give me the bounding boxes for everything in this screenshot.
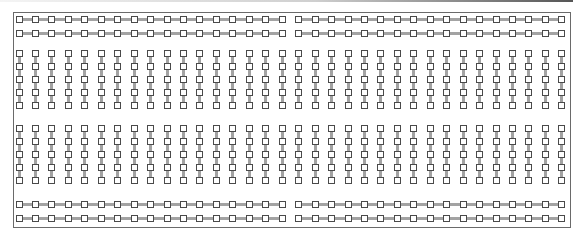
- terminal-hole[interactable]: [345, 164, 352, 171]
- terminal-hole[interactable]: [65, 138, 72, 145]
- terminal-hole[interactable]: [394, 125, 401, 132]
- power-rail-hole[interactable]: [279, 30, 286, 37]
- terminal-hole[interactable]: [65, 76, 72, 83]
- terminal-hole[interactable]: [394, 102, 401, 109]
- power-rail-hole[interactable]: [394, 215, 401, 222]
- terminal-hole[interactable]: [229, 89, 236, 96]
- terminal-hole[interactable]: [312, 50, 319, 57]
- terminal-hole[interactable]: [509, 102, 516, 109]
- terminal-hole[interactable]: [493, 164, 500, 171]
- terminal-hole[interactable]: [361, 89, 368, 96]
- power-rail-hole[interactable]: [32, 215, 39, 222]
- terminal-hole[interactable]: [443, 138, 450, 145]
- terminal-hole[interactable]: [410, 102, 417, 109]
- terminal-hole[interactable]: [114, 50, 121, 57]
- terminal-hole[interactable]: [32, 125, 39, 132]
- terminal-hole[interactable]: [98, 50, 105, 57]
- terminal-hole[interactable]: [98, 89, 105, 96]
- terminal-hole[interactable]: [427, 138, 434, 145]
- terminal-hole[interactable]: [180, 138, 187, 145]
- terminal-hole[interactable]: [476, 164, 483, 171]
- power-rail-hole[interactable]: [476, 201, 483, 208]
- power-rail-hole[interactable]: [196, 201, 203, 208]
- power-rail-hole[interactable]: [114, 215, 121, 222]
- terminal-hole[interactable]: [147, 138, 154, 145]
- terminal-hole[interactable]: [377, 177, 384, 184]
- terminal-hole[interactable]: [164, 164, 171, 171]
- terminal-hole[interactable]: [48, 177, 55, 184]
- terminal-hole[interactable]: [262, 89, 269, 96]
- terminal-hole[interactable]: [229, 177, 236, 184]
- terminal-hole[interactable]: [196, 50, 203, 57]
- power-rail-hole[interactable]: [410, 215, 417, 222]
- terminal-hole[interactable]: [328, 125, 335, 132]
- terminal-hole[interactable]: [312, 164, 319, 171]
- terminal-hole[interactable]: [131, 50, 138, 57]
- terminal-hole[interactable]: [32, 102, 39, 109]
- terminal-hole[interactable]: [542, 63, 549, 70]
- power-rail-hole[interactable]: [509, 201, 516, 208]
- power-rail-hole[interactable]: [558, 16, 565, 23]
- terminal-hole[interactable]: [328, 151, 335, 158]
- terminal-hole[interactable]: [262, 76, 269, 83]
- power-rail-hole[interactable]: [114, 30, 121, 37]
- terminal-hole[interactable]: [377, 76, 384, 83]
- terminal-hole[interactable]: [131, 138, 138, 145]
- power-rail-hole[interactable]: [180, 201, 187, 208]
- terminal-hole[interactable]: [279, 138, 286, 145]
- terminal-hole[interactable]: [246, 76, 253, 83]
- terminal-hole[interactable]: [246, 102, 253, 109]
- terminal-hole[interactable]: [476, 151, 483, 158]
- power-rail-hole[interactable]: [394, 201, 401, 208]
- power-rail-hole[interactable]: [147, 30, 154, 37]
- power-rail-hole[interactable]: [65, 30, 72, 37]
- terminal-hole[interactable]: [493, 102, 500, 109]
- power-rail-hole[interactable]: [377, 16, 384, 23]
- terminal-hole[interactable]: [65, 89, 72, 96]
- terminal-hole[interactable]: [196, 63, 203, 70]
- terminal-hole[interactable]: [65, 151, 72, 158]
- terminal-hole[interactable]: [295, 89, 302, 96]
- power-rail-hole[interactable]: [476, 16, 483, 23]
- terminal-hole[interactable]: [542, 102, 549, 109]
- terminal-hole[interactable]: [427, 89, 434, 96]
- terminal-hole[interactable]: [525, 138, 532, 145]
- power-rail-hole[interactable]: [427, 201, 434, 208]
- power-rail-hole[interactable]: [427, 215, 434, 222]
- terminal-hole[interactable]: [476, 138, 483, 145]
- terminal-hole[interactable]: [460, 76, 467, 83]
- terminal-hole[interactable]: [213, 151, 220, 158]
- terminal-hole[interactable]: [164, 50, 171, 57]
- terminal-hole[interactable]: [229, 164, 236, 171]
- terminal-hole[interactable]: [164, 63, 171, 70]
- terminal-hole[interactable]: [32, 138, 39, 145]
- terminal-hole[interactable]: [394, 89, 401, 96]
- power-rail-hole[interactable]: [246, 215, 253, 222]
- power-rail-hole[interactable]: [361, 30, 368, 37]
- terminal-hole[interactable]: [131, 63, 138, 70]
- terminal-hole[interactable]: [81, 63, 88, 70]
- terminal-hole[interactable]: [131, 89, 138, 96]
- terminal-hole[interactable]: [81, 151, 88, 158]
- terminal-hole[interactable]: [377, 151, 384, 158]
- terminal-hole[interactable]: [196, 102, 203, 109]
- power-rail-hole[interactable]: [262, 30, 269, 37]
- terminal-hole[interactable]: [476, 89, 483, 96]
- terminal-hole[interactable]: [377, 50, 384, 57]
- terminal-hole[interactable]: [164, 89, 171, 96]
- power-rail-hole[interactable]: [164, 30, 171, 37]
- terminal-hole[interactable]: [295, 125, 302, 132]
- terminal-hole[interactable]: [443, 63, 450, 70]
- terminal-hole[interactable]: [460, 138, 467, 145]
- terminal-hole[interactable]: [213, 102, 220, 109]
- terminal-hole[interactable]: [312, 63, 319, 70]
- terminal-hole[interactable]: [558, 102, 565, 109]
- terminal-hole[interactable]: [131, 151, 138, 158]
- terminal-hole[interactable]: [295, 63, 302, 70]
- terminal-hole[interactable]: [558, 151, 565, 158]
- terminal-hole[interactable]: [345, 89, 352, 96]
- terminal-hole[interactable]: [48, 63, 55, 70]
- terminal-hole[interactable]: [147, 177, 154, 184]
- power-rail-hole[interactable]: [460, 215, 467, 222]
- terminal-hole[interactable]: [361, 50, 368, 57]
